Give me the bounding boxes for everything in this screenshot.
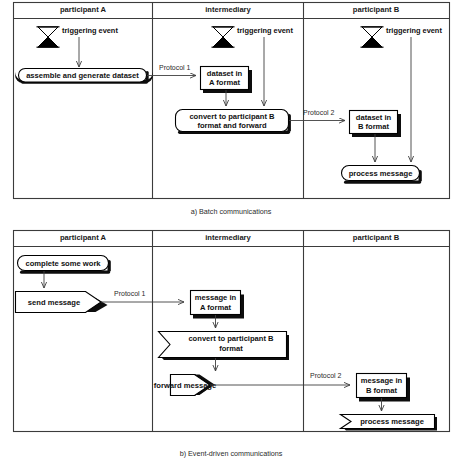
lane-header-intermediary: intermediary [205,233,251,242]
node-label-convert-l1: convert to participant B [189,112,275,121]
lane-header-participant-b: participant B [353,233,400,242]
caption-event-driven-communications: b) Event-driven communications [180,449,283,458]
event-label-a2: triggering event [237,26,293,35]
node-label-dataset-a-l2: A format [209,78,240,87]
node-label-message-a-l2: A format [200,303,231,312]
node-label-convert-l2: format and forward [197,121,267,130]
protocol-label-1-b: Protocol 1 [114,290,146,297]
node-label-assemble: assemble and generate dataset [26,71,139,80]
node-label-complete-some-work: complete some work [25,259,101,268]
node-label-message-a-l1: message in [195,293,237,302]
hourglass-icon [37,27,60,47]
hourglass-icon [212,27,235,47]
diagram-batch-communications: participant A intermediary participant B… [0,0,463,222]
hourglass-icon [361,27,384,47]
lane-header-participant-b: participant B [353,5,400,14]
node-label-convert-b-l1: convert to participant B [188,334,274,343]
node-label-convert-b-l2: format [219,344,243,353]
node-label-dataset-a-l1: dataset in [207,69,243,78]
node-label-process-message-b: process message [360,417,424,426]
lane-header-intermediary: intermediary [205,5,251,14]
event-label-a1: triggering event [62,26,118,35]
node-label-dataset-b-l1: dataset in [356,113,392,122]
node-label-dataset-b-l2: B format [358,122,390,131]
caption-batch-communications: a) Batch communications [191,207,272,216]
node-label-forward-message: forward message [154,381,216,390]
node-label-message-b-l2: B format [366,386,398,395]
node-label-message-b-l1: message in [361,376,403,385]
protocol-label-2-a: Protocol 2 [303,109,335,116]
event-label-a3: triggering event [386,26,442,35]
figure-page: participant A intermediary participant B… [0,0,463,471]
lane-header-participant-a: participant A [60,5,107,14]
node-label-process-message: process message [349,169,413,178]
diagram-event-driven-communications: participant A intermediary participant B… [0,224,463,471]
lane-header-participant-a: participant A [60,233,107,242]
protocol-label-1-a: Protocol 1 [159,64,191,71]
protocol-label-2-b: Protocol 2 [310,372,342,379]
node-label-send-message: send message [28,298,80,307]
